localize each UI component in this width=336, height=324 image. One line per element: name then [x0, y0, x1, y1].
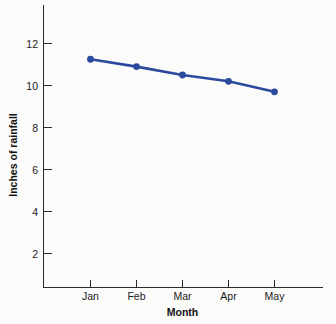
y-tick-label-8: 8: [32, 122, 38, 134]
series-markers-rainfall: [87, 56, 278, 95]
rainfall-line-chart: 12 10 8 6 4 2 Jan Feb Mar Apr May: [0, 0, 336, 324]
data-point-mar: [179, 72, 186, 79]
data-point-jan: [87, 56, 94, 63]
x-tick-label-may: May: [265, 290, 286, 302]
y-tick-label-2: 2: [32, 248, 38, 260]
data-point-apr: [225, 78, 232, 85]
x-tick-label-apr: Apr: [220, 290, 237, 302]
x-tick-label-jan: Jan: [82, 290, 99, 302]
y-tick-label-10: 10: [26, 80, 38, 92]
x-tick-label-feb: Feb: [127, 290, 145, 302]
x-tick-label-mar: Mar: [173, 290, 192, 302]
x-axis-ticks: Jan Feb Mar Apr May: [82, 280, 285, 303]
data-series-rainfall: [87, 56, 278, 95]
y-axis-ticks: 12 10 8 6 4 2: [26, 38, 51, 260]
x-axis-title: Month: [167, 306, 199, 318]
y-tick-label-12: 12: [26, 38, 38, 50]
y-tick-label-4: 4: [32, 206, 38, 218]
data-point-may: [271, 88, 278, 95]
y-tick-label-6: 6: [32, 164, 38, 176]
chart-canvas: 12 10 8 6 4 2 Jan Feb Mar Apr May: [0, 0, 336, 324]
y-axis-title: Inches of rainfall: [7, 113, 19, 197]
data-point-feb: [133, 63, 140, 70]
